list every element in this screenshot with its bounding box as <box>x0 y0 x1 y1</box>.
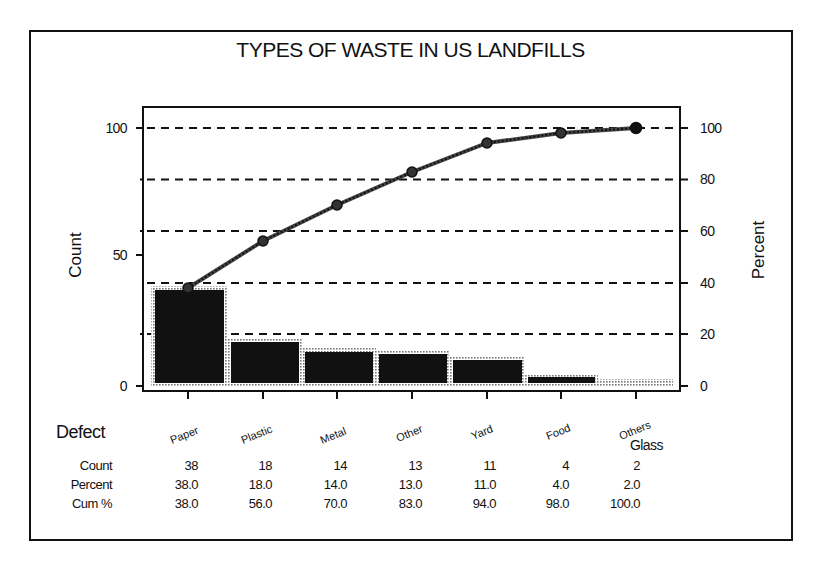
table-cell: 100.0 <box>580 496 640 511</box>
right-tick-0: 0 <box>700 378 708 394</box>
category-note-glass: Glass <box>630 437 663 453</box>
table-cell: 18.0 <box>212 477 272 492</box>
x-axis-ticks <box>188 391 636 399</box>
table-cell: 4.0 <box>509 477 569 492</box>
category-label-yard: Yard <box>469 422 494 442</box>
table-cell: 18 <box>212 458 272 473</box>
cum-marker-paper <box>183 283 193 293</box>
table-cell: 83.0 <box>362 496 422 511</box>
table-cell: 70.0 <box>287 496 347 511</box>
right-axis <box>680 128 688 386</box>
table-cell: 13.0 <box>362 477 422 492</box>
cum-marker-others <box>631 123 642 134</box>
row-label: Cum % <box>0 496 112 511</box>
right-tick-100: 100 <box>700 120 722 136</box>
bar-other <box>379 354 447 383</box>
right-tick-80: 80 <box>700 171 715 187</box>
category-label-other: Other <box>394 422 424 444</box>
table-cell: 56.0 <box>212 496 272 511</box>
category-label-food: Food <box>544 421 572 442</box>
category-label-metal: Metal <box>318 425 347 446</box>
bar-others <box>598 379 673 387</box>
table-cell: 11 <box>436 458 496 473</box>
cum-marker-yard <box>482 138 492 148</box>
table-cell: 2.0 <box>580 477 640 492</box>
category-label-plastic: Plastic <box>239 422 274 445</box>
x-axis-label: Defect <box>56 422 105 443</box>
left-tick-0: 0 <box>120 378 128 394</box>
table-cell: 11.0 <box>436 477 496 492</box>
cum-marker-metal <box>332 200 342 210</box>
left-axis <box>136 128 143 386</box>
row-label: Count <box>0 458 112 473</box>
table-cell: 38.0 <box>138 477 198 492</box>
cum-marker-other <box>407 167 417 177</box>
right-tick-20: 20 <box>700 326 715 342</box>
table-cell: 13 <box>362 458 422 473</box>
bars <box>151 286 673 387</box>
cum-marker-food <box>556 128 566 138</box>
table-cell: 4 <box>509 458 569 473</box>
bar-plastic <box>231 342 299 383</box>
left-tick-100: 100 <box>105 120 127 136</box>
bar-paper <box>155 290 224 383</box>
y-axis-left-label: Count <box>66 232 85 278</box>
table-cell: 2 <box>580 458 640 473</box>
table-cell: 14.0 <box>287 477 347 492</box>
table-cell: 14 <box>287 458 347 473</box>
y-axis-right-label: Percent <box>749 220 768 279</box>
bar-yard <box>453 360 522 383</box>
table-cell: 94.0 <box>436 496 496 511</box>
right-tick-60: 60 <box>700 223 715 239</box>
table-cell: 38 <box>138 458 198 473</box>
cumulative-line <box>183 123 642 294</box>
table-cell: 98.0 <box>509 496 569 511</box>
category-label-paper: Paper <box>168 424 200 446</box>
table-cell: 38.0 <box>138 496 198 511</box>
right-tick-40: 40 <box>700 275 715 291</box>
left-tick-50: 50 <box>113 247 128 263</box>
bar-food <box>528 377 595 383</box>
row-label: Percent <box>0 477 112 492</box>
bar-metal <box>305 352 373 383</box>
cum-marker-plastic <box>258 236 268 246</box>
